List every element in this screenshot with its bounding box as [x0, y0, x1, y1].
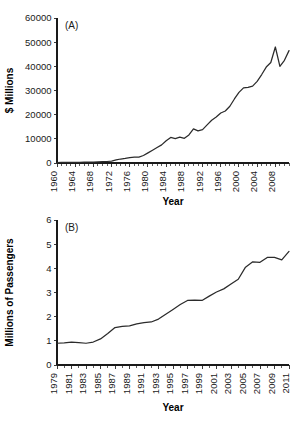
y-tick-label: 1: [46, 335, 51, 346]
figure-two-panel-line-charts: 0100002000030000400005000060000196019641…: [0, 0, 299, 422]
y-axis-title: Millions of Passengers: [4, 238, 15, 347]
x-tick-label: 1964: [66, 171, 77, 192]
x-tick-label: 1983: [77, 373, 88, 394]
x-tick-label: 2007: [251, 373, 262, 394]
x-tick-label: 1988: [175, 171, 186, 192]
x-tick-label: 1968: [84, 171, 95, 192]
x-tick-label: 2003: [222, 373, 233, 394]
y-tick-label: 10000: [25, 133, 51, 144]
panel-a-dollars-millions: 0100002000030000400005000060000196019641…: [0, 0, 299, 211]
x-tick-label: 1997: [179, 373, 190, 394]
x-tick-label: 1987: [106, 373, 117, 394]
y-tick-label: 20000: [25, 109, 51, 120]
x-tick-label: 1984: [157, 171, 168, 192]
y-tick-label: 3: [46, 287, 51, 298]
x-tick-label: 2008: [266, 171, 277, 192]
chart-a-svg: 0100002000030000400005000060000196019641…: [0, 0, 299, 211]
y-axis-title: $ Millions: [4, 67, 15, 113]
panel-b-millions-passengers: 0123456197919811983198519871989199119931…: [0, 211, 299, 422]
x-tick-label: 1980: [139, 171, 150, 192]
y-tick-label: 2: [46, 311, 51, 322]
x-tick-label: 2004: [248, 171, 259, 192]
x-tick-label: 1972: [103, 171, 114, 192]
x-tick-label: 2001: [208, 373, 219, 394]
x-tick-label: 1993: [150, 373, 161, 394]
x-tick-label: 1995: [164, 373, 175, 394]
x-axis-title: Year: [162, 196, 183, 207]
x-tick-label: 1992: [194, 171, 205, 192]
x-tick-label: 1976: [121, 171, 132, 192]
x-axis-title: Year: [162, 402, 183, 413]
x-tick-label: 1985: [92, 373, 103, 394]
y-tick-label: 40000: [25, 61, 51, 72]
data-series-line: [57, 251, 289, 343]
x-tick-label: 1960: [48, 171, 59, 192]
y-tick-label: 4: [46, 263, 51, 274]
x-tick-label: 1979: [48, 373, 59, 394]
chart-b-svg: 0123456197919811983198519871989199119931…: [0, 211, 299, 422]
x-tick-label: 2009: [266, 373, 277, 394]
y-tick-label: 30000: [25, 85, 51, 96]
x-tick-label: 2005: [237, 373, 248, 394]
y-tick-label: 60000: [25, 12, 51, 23]
x-tick-label: 2000: [230, 171, 241, 192]
y-tick-label: 0: [46, 157, 51, 168]
x-tick-label: 1996: [212, 171, 223, 192]
y-tick-label: 6: [46, 214, 51, 225]
x-tick-label: 1981: [63, 373, 74, 394]
y-tick-label: 5: [46, 239, 51, 250]
panel-tag-label: (B): [65, 222, 78, 233]
x-tick-label: 1999: [193, 373, 204, 394]
x-tick-label: 2011: [280, 373, 291, 393]
data-series-line: [57, 47, 289, 163]
panel-tag-label: (A): [65, 20, 78, 31]
y-tick-label: 0: [46, 359, 51, 370]
x-tick-label: 1991: [135, 373, 146, 394]
y-tick-label: 50000: [25, 37, 51, 48]
x-tick-label: 1989: [121, 373, 132, 394]
